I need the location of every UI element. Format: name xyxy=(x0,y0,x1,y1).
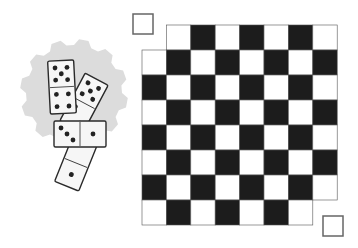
board-square-light xyxy=(215,25,239,50)
board-square-light xyxy=(240,50,264,75)
board-square-dark xyxy=(191,75,215,100)
board-square-light xyxy=(313,175,337,200)
board-square-dark xyxy=(142,75,166,100)
board-square-light xyxy=(313,125,337,150)
board-square-dark xyxy=(288,175,312,200)
mutilated-chessboard-figure xyxy=(0,0,358,248)
board-square-dark xyxy=(191,125,215,150)
board-square-dark xyxy=(288,25,312,50)
board-square-dark xyxy=(264,100,288,125)
board-square-light xyxy=(191,200,215,225)
board-square-light xyxy=(240,100,264,125)
domino-pip xyxy=(91,132,96,137)
domino-3 xyxy=(54,121,106,147)
board-square-light xyxy=(191,100,215,125)
board-square-dark xyxy=(264,200,288,225)
figure-canvas xyxy=(0,0,358,248)
board-square-light xyxy=(191,150,215,175)
board-square-dark xyxy=(166,50,190,75)
board-square-light xyxy=(264,175,288,200)
board-square-light xyxy=(264,25,288,50)
board-square-light xyxy=(191,50,215,75)
board-square-dark xyxy=(288,75,312,100)
removed-square-bottom-right xyxy=(323,216,343,236)
board-square-dark xyxy=(240,75,264,100)
board-square-dark xyxy=(240,175,264,200)
board-square-dark xyxy=(191,25,215,50)
board-square-light xyxy=(313,75,337,100)
board-square-light xyxy=(142,150,166,175)
domino-1 xyxy=(48,60,77,114)
board-square-light xyxy=(142,100,166,125)
domino-pip xyxy=(59,126,64,131)
board-square-dark xyxy=(215,100,239,125)
chessboard xyxy=(142,25,337,225)
board-square-dark xyxy=(264,150,288,175)
board-square-dark xyxy=(264,50,288,75)
board-square-light xyxy=(288,200,312,225)
board-square-light xyxy=(264,125,288,150)
board-square-dark xyxy=(313,100,337,125)
board-square-dark xyxy=(240,25,264,50)
board-square-light xyxy=(142,50,166,75)
board-square-dark xyxy=(240,125,264,150)
removed-square-top-left xyxy=(133,14,153,34)
board-square-dark xyxy=(215,200,239,225)
board-square-light xyxy=(288,50,312,75)
board-square-light xyxy=(142,200,166,225)
board-square-light xyxy=(240,150,264,175)
board-square-light xyxy=(166,125,190,150)
board-square-dark xyxy=(313,50,337,75)
board-square-light xyxy=(288,100,312,125)
board-square-light xyxy=(215,75,239,100)
board-square-light xyxy=(215,175,239,200)
domino-pip xyxy=(71,138,76,143)
domino-pip xyxy=(65,132,70,137)
board-square-light xyxy=(264,75,288,100)
board-square-dark xyxy=(215,150,239,175)
board-square-light xyxy=(313,25,337,50)
board-square-dark xyxy=(166,200,190,225)
board-square-dark xyxy=(142,175,166,200)
board-square-dark xyxy=(288,125,312,150)
board-square-light xyxy=(215,125,239,150)
board-square-light xyxy=(166,75,190,100)
board-square-dark xyxy=(142,125,166,150)
board-square-dark xyxy=(166,100,190,125)
board-square-light xyxy=(166,175,190,200)
board-square-dark xyxy=(313,150,337,175)
board-square-light xyxy=(240,200,264,225)
board-square-light xyxy=(166,25,190,50)
board-square-light xyxy=(288,150,312,175)
board-square-dark xyxy=(191,175,215,200)
board-square-dark xyxy=(215,50,239,75)
board-square-dark xyxy=(166,150,190,175)
